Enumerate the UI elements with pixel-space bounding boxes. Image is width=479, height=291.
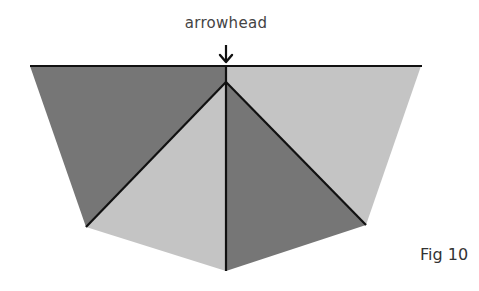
figure-number-label: Fig 10	[420, 245, 468, 264]
down-arrow-icon	[220, 45, 232, 62]
arrowhead-label: arrowhead	[180, 14, 272, 32]
folding-diagram	[0, 0, 479, 291]
